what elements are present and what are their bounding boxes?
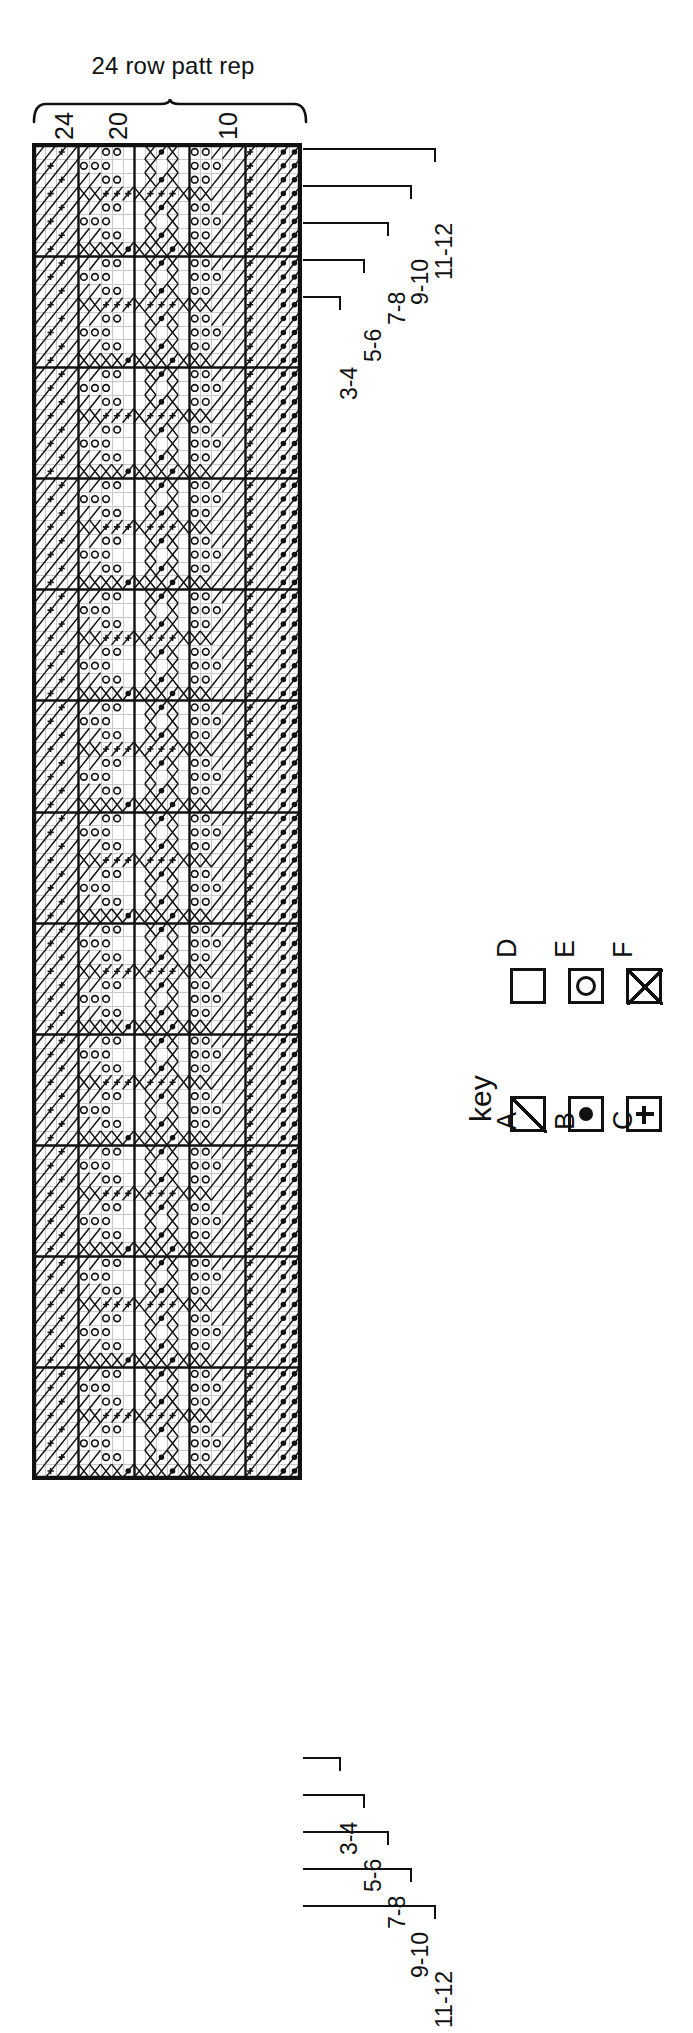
column-number-10: 10 — [216, 112, 241, 140]
key-entry-E: E — [568, 968, 604, 1004]
stitch-chart — [32, 143, 302, 1480]
pattern-repeat-caption: 24 row patt rep — [28, 52, 318, 80]
leader-line-9-10-bottom — [303, 1868, 412, 1870]
row-label-5-6-bottom: 5-6 — [362, 1859, 385, 1892]
key-label-F: F — [608, 942, 639, 959]
key-label-D: D — [492, 939, 523, 959]
row-label-3-4-top: 3-4 — [338, 367, 361, 400]
key-entry-C: C — [626, 1096, 662, 1132]
leader-tick-7-8-bottom — [387, 1831, 389, 1845]
leader-tick-11-12-top — [434, 148, 436, 162]
leader-tick-5-6-top — [363, 259, 365, 273]
key-label-C: C — [608, 1111, 639, 1131]
column-number-24: 24 — [52, 112, 77, 140]
leader-tick-3-4-top — [339, 296, 341, 310]
leader-tick-3-4-bottom — [339, 1757, 341, 1771]
leader-line-7-8-top — [303, 222, 389, 224]
row-label-11-12-bottom: 11-12 — [433, 1971, 456, 2028]
leader-tick-9-10-bottom — [410, 1868, 412, 1882]
leader-line-3-4-top — [303, 296, 341, 298]
key-label-B: B — [550, 1112, 581, 1130]
leader-line-9-10-top — [303, 185, 412, 187]
leader-tick-5-6-bottom — [363, 1794, 365, 1808]
row-label-9-10-bottom: 9-10 — [409, 1932, 432, 1978]
stitch-chart-canvas — [34, 145, 300, 1478]
leader-line-7-8-bottom — [303, 1831, 389, 1833]
key-label-E: E — [550, 940, 581, 958]
row-label-3-4-bottom: 3-4 — [338, 1822, 361, 1855]
leader-line-11-12-bottom — [303, 1905, 436, 1907]
row-label-5-6-top: 5-6 — [362, 329, 385, 362]
stitch-chart-grid — [32, 143, 302, 1480]
column-number-20: 20 — [106, 112, 131, 140]
leader-line-5-6-top — [303, 259, 365, 261]
row-label-11-12-top: 11-12 — [433, 223, 456, 280]
leader-line-5-6-bottom — [303, 1794, 365, 1796]
key-entry-B: B — [568, 1096, 604, 1132]
row-label-9-10-top: 9-10 — [409, 259, 432, 305]
leader-line-11-12-top — [303, 148, 436, 150]
leader-tick-11-12-bottom — [434, 1905, 436, 1919]
key-entry-A: A — [510, 1096, 546, 1132]
key-symbol-empty-box-icon — [510, 968, 546, 1004]
key-symbol-cross-icon — [626, 968, 662, 1004]
key-symbol-open-circle-icon — [568, 968, 604, 1004]
key-entry-F: F — [626, 968, 662, 1004]
row-label-7-8-bottom: 7-8 — [386, 1896, 409, 1929]
key-label-A: A — [492, 1112, 523, 1130]
row-label-7-8-top: 7-8 — [386, 292, 409, 325]
key-entry-D: D — [510, 968, 546, 1004]
leader-tick-9-10-top — [410, 185, 412, 199]
leader-tick-7-8-top — [387, 222, 389, 236]
chart-key: key A B C D E F — [402, 900, 642, 1170]
leader-line-3-4-bottom — [303, 1757, 341, 1759]
